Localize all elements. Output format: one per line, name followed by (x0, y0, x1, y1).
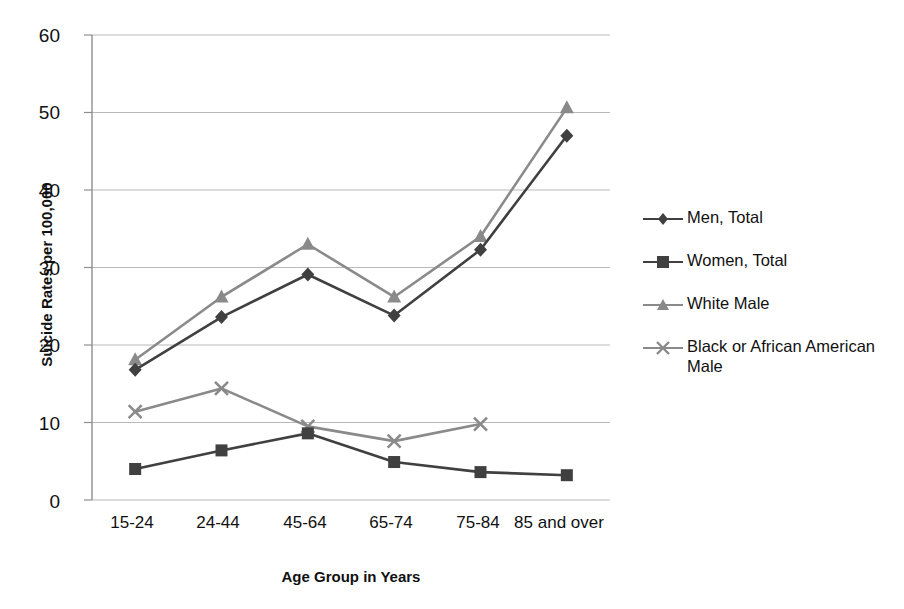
series-layer (128, 100, 574, 481)
diamond-marker-icon (643, 209, 683, 229)
legend-item-black-or-african-american-male[interactable]: Black or African American Male (643, 337, 901, 377)
data-point-white-male-5 (560, 100, 574, 113)
triangle-marker-icon (643, 295, 683, 315)
data-point-white-male-1 (215, 289, 229, 302)
cross-marker-icon (643, 338, 683, 358)
data-point-women-total-4 (475, 466, 487, 478)
legend-item-men-total[interactable]: Men, Total (643, 208, 901, 229)
data-point-women-total-1 (216, 444, 228, 456)
axis-lines (84, 35, 92, 500)
series-line-men-total (135, 136, 567, 370)
legend-label-white-male: White Male (687, 294, 770, 314)
data-point-women-total-3 (388, 456, 400, 468)
data-point-white-male-3 (387, 289, 401, 302)
gridlines (92, 35, 610, 500)
data-point-white-male-2 (301, 237, 315, 250)
legend-label-black-or-african-american-male: Black or African American Male (687, 337, 901, 377)
data-point-women-total-2 (302, 427, 314, 439)
data-point-men-total-2 (301, 267, 314, 281)
legend-item-white-male[interactable]: White Male (643, 294, 901, 315)
legend: Men, Total Women, Total White Male Black… (643, 208, 901, 399)
data-point-women-total-5 (561, 469, 573, 481)
series-line-white-male (135, 108, 567, 360)
square-marker-icon (643, 252, 683, 272)
series-line-women-total (135, 433, 567, 475)
series-men-total (129, 129, 574, 377)
legend-label-men-total: Men, Total (687, 208, 763, 228)
data-point-women-total-0 (129, 463, 141, 475)
suicide-rates-line-chart: Suicide Rates per 100,000 60 50 40 30 20… (0, 0, 904, 609)
legend-item-women-total[interactable]: Women, Total (643, 251, 901, 272)
data-point-men-total-1 (215, 310, 228, 324)
series-white-male (128, 100, 574, 365)
series-women-total (129, 427, 573, 481)
legend-label-women-total: Women, Total (687, 251, 787, 271)
